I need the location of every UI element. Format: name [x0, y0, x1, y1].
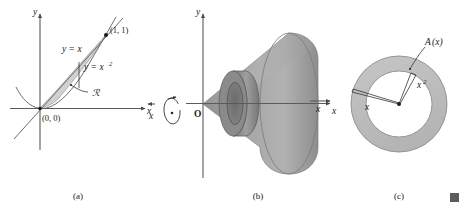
label-y-equals-x: y = x — [61, 44, 82, 54]
label-area-a-of-x: A (x) — [424, 37, 443, 48]
label-origin-0-0: (0, 0) — [42, 113, 61, 123]
panel-b-origin-label: O — [194, 109, 201, 119]
label-y-equals-x-squared: y = x 2 — [83, 60, 113, 73]
panel-c-x-axis-label: x — [315, 104, 321, 114]
svg-text:2: 2 — [109, 60, 113, 67]
label-point-1-1: (1, 1) — [110, 25, 129, 35]
figure-svg: y x y = x y = x 2 (1, 1) (0, 0) ℛ (a) x — [0, 0, 466, 217]
panel-a-y-axis-label: y — [32, 7, 38, 17]
panel-b: x y x O (b) — [146, 7, 337, 201]
rotation-axis-label: x — [146, 106, 152, 116]
figure-container: y x y = x y = x 2 (1, 1) (0, 0) ℛ (a) x — [0, 0, 466, 217]
panel-c: x x x 2 — [310, 37, 447, 201]
svg-text:A: A — [424, 37, 431, 47]
label-outer-radius-x: x — [364, 102, 370, 112]
panel-a: y x y = x y = x 2 (1, 1) (0, 0) ℛ (a) — [10, 7, 154, 201]
caption-c: (c) — [394, 191, 404, 201]
svg-text:x: x — [416, 80, 422, 90]
svg-text:(x): (x) — [432, 37, 443, 48]
svg-text:y = x: y = x — [83, 62, 104, 72]
region-label-leader — [71, 85, 88, 92]
label-region-r: ℛ — [92, 88, 101, 98]
panel-b-x-axis-label: x — [331, 106, 337, 116]
origin-dot-a — [38, 107, 42, 111]
caption-a: (a) — [73, 191, 83, 201]
end-of-figure-marker — [450, 193, 459, 202]
panel-b-y-axis-label: y — [195, 7, 201, 17]
caption-b: (b) — [253, 191, 264, 201]
point-1-1-dot — [104, 33, 108, 37]
rotation-axis-indicator — [163, 97, 182, 125]
